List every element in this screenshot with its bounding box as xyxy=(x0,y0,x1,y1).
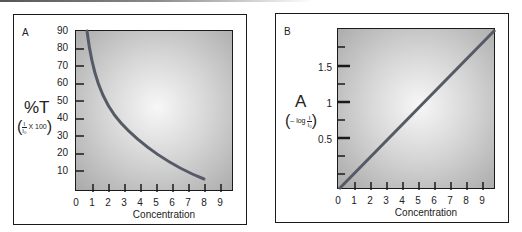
panel-b-plot-area xyxy=(337,28,495,189)
xtick-label: 8 xyxy=(198,197,210,208)
xtick-label: 4 xyxy=(396,195,408,206)
panel-b-ylabel-formula: (– log II₀) xyxy=(285,112,317,130)
ytick-label: 90 xyxy=(46,25,68,36)
ytick-label: 20 xyxy=(46,147,68,158)
ytick-label: 40 xyxy=(46,112,68,123)
xtick-label: 5 xyxy=(412,195,424,206)
panel-a-yticks xyxy=(76,49,84,171)
xtick-label: 1 xyxy=(348,195,360,206)
xtick-label: 8 xyxy=(460,195,472,206)
xtick-label: 7 xyxy=(182,197,194,208)
panel-b: B A (– log II₀) 1.5 1 0.5 xyxy=(275,13,509,223)
panel-a: A %T (II₀ X 100) 90 80 70 60 50 40 30 20… xyxy=(13,14,247,225)
xtick-label: 6 xyxy=(166,197,178,208)
panel-b-ylabel: A xyxy=(295,92,306,112)
panel-b-line xyxy=(339,30,495,189)
ytick-label: 70 xyxy=(46,60,68,71)
xtick-label: 7 xyxy=(444,195,456,206)
xtick-label: 6 xyxy=(428,195,440,206)
ytick-label: 1 xyxy=(310,98,332,109)
ytick-label: 10 xyxy=(46,165,68,176)
panel-b-xticks xyxy=(355,182,483,190)
formula-prefix: – log xyxy=(290,117,305,124)
xtick-label: 4 xyxy=(134,197,146,208)
panel-a-plot-area xyxy=(75,30,233,191)
xtick-label: 2 xyxy=(102,197,114,208)
ytick-label: 30 xyxy=(46,130,68,141)
ytick-label: 50 xyxy=(46,95,68,106)
ytick-label: 60 xyxy=(46,77,68,88)
xtick-label: 0 xyxy=(70,197,82,208)
xtick-label: 3 xyxy=(380,195,392,206)
panel-a-xlabel: Concentration xyxy=(124,209,204,220)
xtick-label: 9 xyxy=(476,195,488,206)
xtick-label: 2 xyxy=(364,195,376,206)
panel-a-curve xyxy=(87,31,204,179)
xtick-label: 5 xyxy=(150,197,162,208)
xtick-label: 0 xyxy=(332,195,344,206)
formula-suffix: X 100 xyxy=(28,123,46,130)
panel-b-plot-svg xyxy=(338,29,496,190)
xtick-label: 9 xyxy=(214,197,226,208)
xtick-label: 3 xyxy=(118,197,130,208)
xtick-label: 1 xyxy=(86,197,98,208)
panel-a-xticks xyxy=(93,184,221,192)
formula-denominator: I₀ xyxy=(22,128,26,134)
top-rule xyxy=(0,0,522,2)
formula-numerator: I xyxy=(22,121,26,128)
ytick-label: 0.5 xyxy=(310,134,332,145)
panel-a-letter: A xyxy=(22,27,29,38)
panel-b-letter: B xyxy=(284,26,291,37)
ytick-label: 80 xyxy=(46,42,68,53)
ytick-label: 1.5 xyxy=(310,62,332,73)
panel-a-plot-svg xyxy=(76,31,234,192)
panel-b-yticks xyxy=(338,47,350,174)
panel-b-xlabel: Concentration xyxy=(386,207,466,218)
